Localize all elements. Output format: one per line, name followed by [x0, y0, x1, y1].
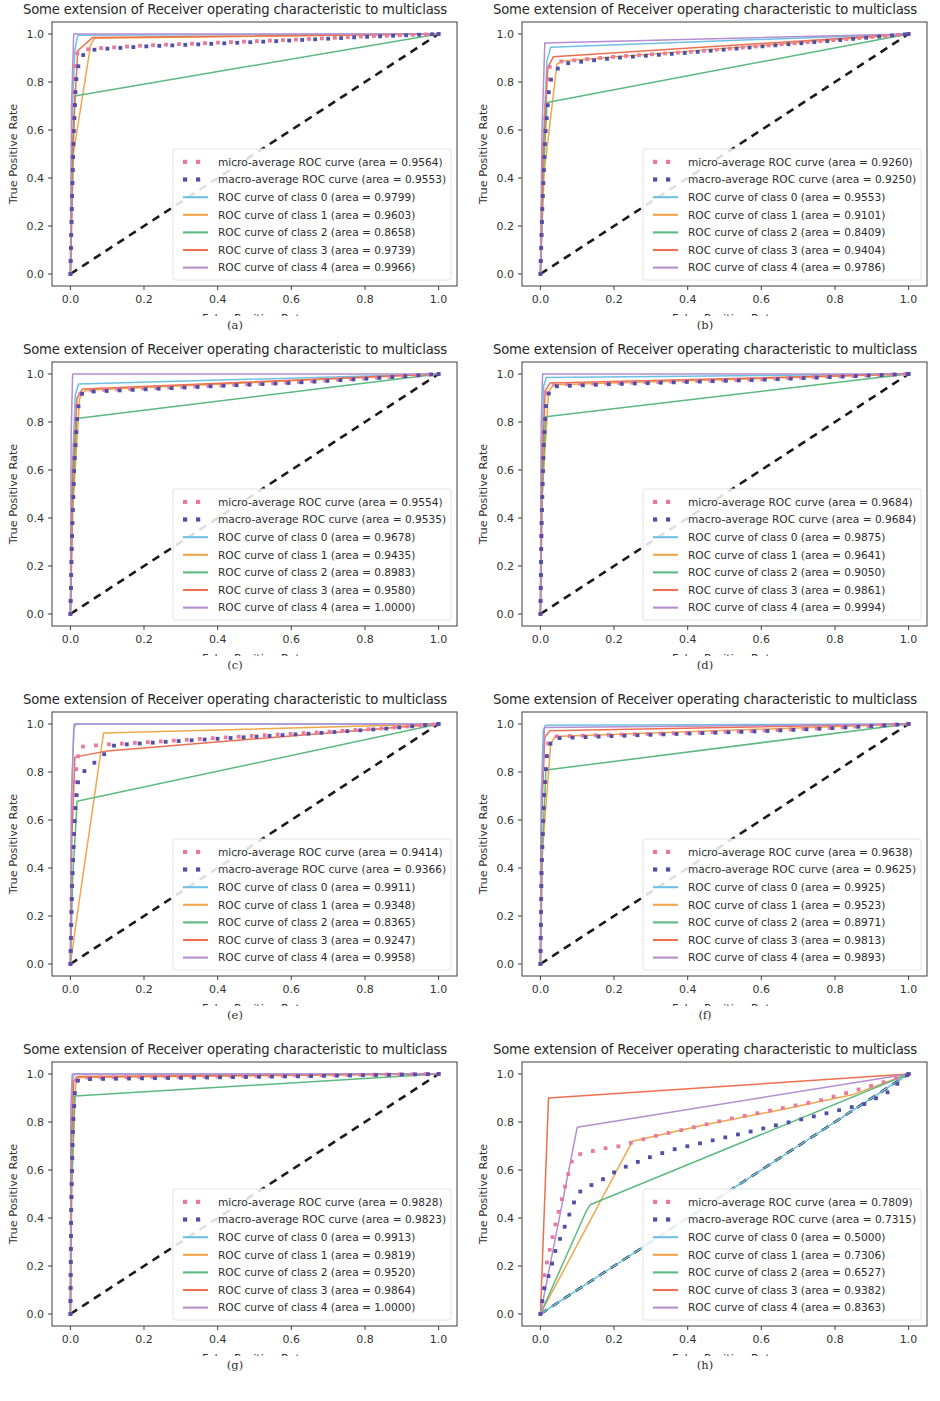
- x-tick-label: 0.6: [753, 293, 771, 306]
- plot-area: 0.00.20.40.60.81.00.00.20.40.60.81.0Fals…: [470, 706, 940, 1006]
- legend-label-macro: macro-average ROC curve (area = 0.9366): [218, 863, 446, 875]
- legend-label-class0: ROC curve of class 0 (area = 0.9913): [218, 1231, 415, 1243]
- y-tick-label: 0.4: [497, 862, 515, 875]
- legend-label-micro: micro-average ROC curve (area = 0.9260): [688, 156, 913, 168]
- y-tick-label: 0.0: [497, 608, 515, 621]
- y-tick-label: 0.0: [27, 268, 45, 281]
- x-tick-label: 0.4: [209, 1333, 227, 1346]
- x-tick-label: 0.8: [356, 633, 374, 646]
- panel-caption: (e): [0, 1008, 470, 1022]
- legend-label-class3: ROC curve of class 3 (area = 0.9864): [218, 1284, 415, 1296]
- legend-label-class4: ROC curve of class 4 (area = 0.9994): [688, 601, 885, 613]
- legend-swatch-macro-b: [666, 1217, 670, 1221]
- legend-label-macro: macro-average ROC curve (area = 0.9535): [218, 513, 446, 525]
- legend-swatch-micro: [183, 160, 187, 164]
- y-tick-label: 0.2: [497, 220, 515, 233]
- x-tick-label: 0.0: [532, 633, 550, 646]
- panel-title: Some extension of Receiver operating cha…: [470, 342, 940, 357]
- legend-swatch-macro-b: [196, 517, 200, 521]
- x-tick-label: 1.0: [900, 633, 918, 646]
- legend-label-class4: ROC curve of class 4 (area = 0.8363): [688, 1301, 885, 1313]
- legend-swatch-micro: [183, 1200, 187, 1204]
- panel-title: Some extension of Receiver operating cha…: [0, 692, 470, 707]
- y-axis-label: True Positive Rate: [7, 794, 20, 896]
- legend-label-class2: ROC curve of class 2 (area = 0.8658): [218, 226, 415, 238]
- legend-label-macro: macro-average ROC curve (area = 0.9684): [688, 513, 916, 525]
- x-tick-label: 0.6: [283, 293, 301, 306]
- y-tick-label: 0.0: [27, 958, 45, 971]
- y-tick-label: 0.6: [27, 814, 45, 827]
- legend-label-class3: ROC curve of class 3 (area = 0.9580): [218, 584, 415, 596]
- plot-area: 0.00.20.40.60.81.00.00.20.40.60.81.0Fals…: [470, 356, 940, 656]
- plot-area: 0.00.20.40.60.81.00.00.20.40.60.81.0Fals…: [0, 16, 470, 316]
- panel-caption: (f): [470, 1008, 940, 1022]
- y-axis-label: True Positive Rate: [7, 1144, 20, 1246]
- x-axis-label: False Positive Rate: [672, 1352, 777, 1356]
- y-tick-label: 0.4: [497, 172, 515, 185]
- legend-swatch-micro: [653, 1200, 657, 1204]
- plot-area: 0.00.20.40.60.81.00.00.20.40.60.81.0Fals…: [0, 1056, 470, 1356]
- plot-area: 0.00.20.40.60.81.00.00.20.40.60.81.0Fals…: [470, 1056, 940, 1356]
- x-tick-label: 0.2: [605, 293, 623, 306]
- y-tick-label: 1.0: [497, 718, 515, 731]
- panel-title: Some extension of Receiver operating cha…: [0, 342, 470, 357]
- x-tick-label: 0.8: [826, 293, 844, 306]
- x-axis-label: False Positive Rate: [202, 652, 307, 656]
- legend-label-class1: ROC curve of class 1 (area = 0.7306): [688, 1249, 885, 1261]
- legend-swatch-micro: [183, 500, 187, 504]
- x-tick-label: 1.0: [430, 983, 448, 996]
- plot-area: 0.00.20.40.60.81.00.00.20.40.60.81.0Fals…: [0, 706, 470, 1006]
- legend-label-class0: ROC curve of class 0 (area = 0.9678): [218, 531, 415, 543]
- legend-label-macro: macro-average ROC curve (area = 0.9625): [688, 863, 916, 875]
- legend-label-class2: ROC curve of class 2 (area = 0.9520): [218, 1266, 415, 1278]
- legend-label-class1: ROC curve of class 1 (area = 0.9641): [688, 549, 885, 561]
- legend-label-macro: macro-average ROC curve (area = 0.9553): [218, 173, 446, 185]
- y-tick-label: 0.2: [27, 560, 45, 573]
- panel-title: Some extension of Receiver operating cha…: [0, 1042, 470, 1057]
- roc-panel-g: Some extension of Receiver operating cha…: [0, 1040, 470, 1401]
- y-tick-label: 1.0: [497, 368, 515, 381]
- y-axis-label: True Positive Rate: [477, 794, 490, 896]
- x-tick-label: 0.8: [826, 983, 844, 996]
- legend-swatch-micro: [653, 500, 657, 504]
- x-tick-label: 0.6: [753, 983, 771, 996]
- legend-label-class3: ROC curve of class 3 (area = 0.9382): [688, 1284, 885, 1296]
- x-tick-label: 0.2: [135, 983, 153, 996]
- legend-label-class4: ROC curve of class 4 (area = 0.9786): [688, 261, 885, 273]
- legend-label-micro: micro-average ROC curve (area = 0.9638): [688, 846, 913, 858]
- y-axis-label: True Positive Rate: [477, 104, 490, 206]
- legend-label-class1: ROC curve of class 1 (area = 0.9101): [688, 209, 885, 221]
- x-tick-label: 0.4: [209, 633, 227, 646]
- legend-label-class1: ROC curve of class 1 (area = 0.9819): [218, 1249, 415, 1261]
- y-tick-label: 0.2: [497, 1260, 515, 1273]
- legend-label-class3: ROC curve of class 3 (area = 0.9247): [218, 934, 415, 946]
- x-tick-label: 1.0: [900, 1333, 918, 1346]
- y-tick-label: 0.0: [27, 608, 45, 621]
- legend-swatch-macro: [183, 517, 187, 521]
- panel-title: Some extension of Receiver operating cha…: [470, 2, 940, 17]
- legend-swatch-micro-b: [666, 160, 670, 164]
- x-tick-label: 0.2: [605, 983, 623, 996]
- legend-label-class4: ROC curve of class 4 (area = 1.0000): [218, 1301, 415, 1313]
- y-tick-label: 0.8: [27, 1116, 45, 1129]
- x-tick-label: 0.6: [283, 1333, 301, 1346]
- legend-swatch-macro-b: [666, 517, 670, 521]
- y-tick-label: 0.8: [27, 416, 45, 429]
- x-tick-label: 0.8: [356, 983, 374, 996]
- y-tick-label: 0.0: [497, 268, 515, 281]
- legend-swatch-macro-b: [196, 177, 200, 181]
- x-tick-label: 0.0: [62, 1333, 80, 1346]
- legend-label-micro: micro-average ROC curve (area = 0.9554): [218, 496, 443, 508]
- legend-label-class4: ROC curve of class 4 (area = 0.9966): [218, 261, 415, 273]
- x-tick-label: 1.0: [900, 983, 918, 996]
- y-tick-label: 0.6: [27, 1164, 45, 1177]
- y-tick-label: 0.2: [497, 560, 515, 573]
- x-tick-label: 0.0: [532, 293, 550, 306]
- plot-area: 0.00.20.40.60.81.00.00.20.40.60.81.0Fals…: [0, 356, 470, 656]
- x-tick-label: 0.0: [532, 983, 550, 996]
- legend-label-class4: ROC curve of class 4 (area = 1.0000): [218, 601, 415, 613]
- x-tick-label: 1.0: [900, 293, 918, 306]
- x-tick-label: 0.2: [135, 293, 153, 306]
- legend-label-class0: ROC curve of class 0 (area = 0.9911): [218, 881, 415, 893]
- panel-caption: (h): [470, 1358, 940, 1372]
